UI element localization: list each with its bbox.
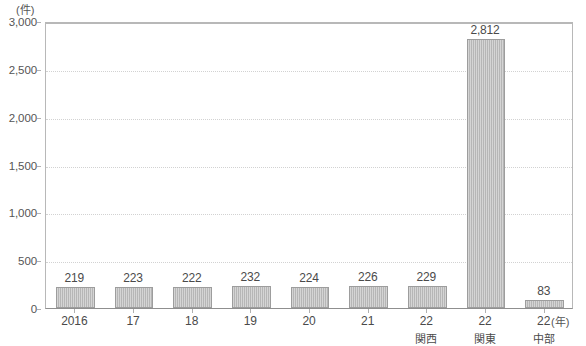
bar [232, 286, 271, 308]
x-axis-tick-mark [426, 309, 427, 313]
x-axis-tick-year: 22 [537, 314, 550, 328]
y-axis-tick-mark [37, 118, 41, 119]
y-axis-tick-label: 3,000 [9, 16, 37, 28]
y-axis-tick-mark [37, 309, 41, 310]
x-axis-tick-region: 関東 [456, 330, 515, 346]
bar [467, 39, 506, 308]
y-axis-tick-mark [37, 22, 41, 23]
y-axis-tick-mark [37, 166, 41, 167]
x-axis-unit-label: (年) [551, 313, 569, 329]
x-axis-tick-mark [368, 309, 369, 313]
x-axis-tick-year: 2016 [61, 314, 87, 328]
x-axis-tick-mark [485, 309, 486, 313]
x-axis-tick-region: 関西 [397, 330, 456, 346]
x-axis-tick-year: 17 [126, 314, 139, 328]
bar-value-label: 83 [514, 284, 573, 298]
y-axis-tick-mark [37, 70, 41, 71]
x-axis-tick-mark [544, 309, 545, 313]
x-axis-tick-mark [250, 309, 251, 313]
x-axis-tick-label: 17 [104, 314, 163, 328]
bar-value-label: 2,812 [456, 23, 515, 37]
x-axis-tick-label: 22関東 [456, 314, 515, 346]
bar [56, 287, 95, 308]
x-axis-tick-label: 19 [221, 314, 280, 328]
plot-area [45, 22, 573, 309]
bar [525, 300, 564, 308]
y-axis-tick-label: 2,000 [9, 112, 37, 124]
bar-value-label: 224 [280, 271, 339, 285]
y-axis-unit-label: (件) [16, 1, 34, 17]
y-axis-tick-mark [37, 213, 41, 214]
x-axis-tick-year: 22 [478, 314, 491, 328]
x-axis-tick-mark [192, 309, 193, 313]
x-axis-tick-mark [74, 309, 75, 313]
bar-value-label: 219 [45, 271, 104, 285]
x-axis-tick-label: 21 [338, 314, 397, 328]
x-axis-tick-year: 21 [361, 314, 374, 328]
bar [291, 287, 330, 308]
x-axis-tick-mark [309, 309, 310, 313]
x-axis-tick-year: 18 [185, 314, 198, 328]
y-axis-tick-label: 1,000 [9, 207, 37, 219]
y-axis-tick-label: 1,500 [9, 160, 37, 172]
bar-value-label: 229 [397, 270, 456, 284]
y-axis-tick-mark [37, 261, 41, 262]
x-axis-tick-label: 18 [162, 314, 221, 328]
bar-value-label: 222 [162, 271, 221, 285]
y-axis-tick-label: 2,500 [9, 64, 37, 76]
bar-value-label: 226 [338, 270, 397, 284]
x-axis-tick-year: 20 [302, 314, 315, 328]
bar [115, 287, 154, 308]
bar-value-label: 232 [221, 270, 280, 284]
x-axis-tick-year: 22 [420, 314, 433, 328]
x-axis-tick-label: 22関西 [397, 314, 456, 346]
y-axis-tick-label: 500 [18, 255, 37, 267]
x-axis-tick-mark [133, 309, 134, 313]
x-axis-tick-label: 2016 [45, 314, 104, 328]
y-axis-ticks: 3,0002,5002,0001,5001,0005000 [0, 22, 41, 309]
bar-value-label: 223 [104, 271, 163, 285]
x-axis-tick-region: 中部 [514, 330, 573, 346]
bar [349, 286, 388, 308]
bar [173, 287, 212, 308]
bar [408, 286, 447, 308]
x-axis-tick-label: 20 [280, 314, 339, 328]
x-axis-tick-year: 19 [244, 314, 257, 328]
